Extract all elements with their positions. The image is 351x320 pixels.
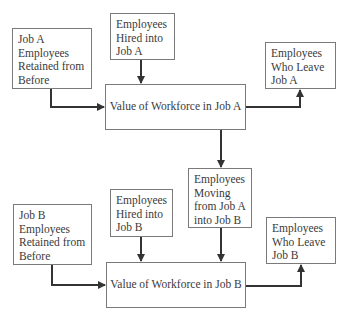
node-text-line: Job A	[18, 33, 86, 47]
node-text-line: Job B	[272, 249, 330, 263]
node-value-a: Value of Workforce in Job A	[105, 84, 246, 130]
node-text-line: Retained from	[19, 236, 86, 250]
node-leave-a: Employees Who Leave Job A	[265, 42, 336, 89]
node-text-line: Employees	[18, 47, 86, 61]
node-retained-a: Job A Employees Retained from Before	[12, 28, 92, 89]
node-leave-b: Employees Who Leave Job B	[266, 217, 336, 264]
workforce-flow-diagram: Job A Employees Retained from Before Emp…	[0, 0, 351, 320]
node-hired-b: Employees Hired into Job B	[110, 189, 173, 237]
node-text-line: Who Leave	[272, 236, 330, 250]
node-text-line: Before	[19, 250, 86, 264]
node-text-line: Job A	[271, 74, 330, 88]
node-text-line: Employees	[272, 222, 330, 236]
node-hired-a: Employees Hired into Job A	[110, 13, 175, 60]
node-text-line: Moving	[194, 187, 246, 201]
node-text-line: Employees	[19, 223, 86, 237]
node-text-line: Hired into	[116, 208, 167, 222]
node-text-line: Employees	[271, 47, 330, 61]
arrow-retained-a-to-value-a	[51, 89, 104, 107]
node-text-line: Job A	[116, 45, 169, 59]
node-text-line: Employees	[116, 18, 169, 32]
node-label: Value of Workforce in Job A	[110, 100, 241, 114]
node-text-line: Who Leave	[271, 61, 330, 75]
node-text-line: Before	[18, 74, 86, 88]
node-text-line: Retained from	[18, 60, 86, 74]
node-text-line: Job B	[19, 209, 86, 223]
node-text-line: from Job A	[194, 200, 246, 214]
node-text-line: Hired into	[116, 32, 169, 46]
node-text-line: Job B	[116, 221, 167, 235]
node-moving-ab: Employees Moving from Job A into Job B	[188, 168, 252, 228]
arrow-value-b-to-leave-b	[246, 265, 301, 286]
arrow-value-a-to-leave-a	[246, 90, 300, 107]
node-label: Value of Workforce in Job B	[110, 278, 241, 292]
node-value-b: Value of Workforce in Job B	[106, 262, 246, 308]
arrow-retained-b-to-value-b	[52, 265, 105, 285]
node-text-line: Employees	[116, 194, 167, 208]
node-text-line: Employees	[194, 173, 246, 187]
node-text-line: into Job B	[194, 214, 246, 228]
node-retained-b: Job B Employees Retained from Before	[13, 204, 92, 265]
